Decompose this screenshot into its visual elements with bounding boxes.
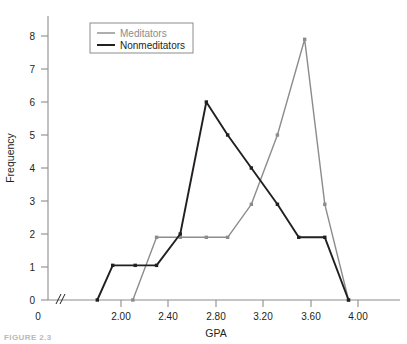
- data-point: [276, 203, 279, 206]
- figure-caption: FIGURE 2.3: [4, 333, 52, 342]
- x-axis-ticks: [121, 300, 358, 307]
- data-point: [250, 166, 253, 169]
- data-point: [226, 236, 229, 239]
- data-point: [179, 232, 182, 235]
- x-axis-title: GPA: [205, 327, 226, 339]
- legend-label-meditators: Meditators: [120, 28, 167, 39]
- data-point: [155, 264, 158, 267]
- chart-canvas: 0 1 2 3 4 5 6 7 8 0 2.00 2.40 2.80 3.20 …: [0, 0, 407, 344]
- y-axis-title: Frequency: [4, 132, 16, 182]
- y-axis-tick-labels: 0 1 2 3 4 5 6 7 8: [29, 31, 35, 306]
- data-point: [297, 236, 300, 239]
- x-tick-label-240: 2.40: [158, 311, 178, 322]
- x-axis-tick-labels: 0 2.00 2.40 2.80 3.20 3.60 4.00: [35, 311, 368, 322]
- data-point: [303, 38, 306, 41]
- y-tick-label-1: 1: [29, 262, 35, 273]
- data-point: [111, 264, 114, 267]
- data-point: [250, 203, 253, 206]
- x-tick-label-200: 2.00: [111, 311, 131, 322]
- data-point: [276, 133, 279, 136]
- series-nonmeditators: [96, 100, 351, 301]
- x-tick-label-320: 3.20: [253, 311, 273, 322]
- y-tick-label-2: 2: [29, 229, 35, 240]
- x-tick-label-0: 0: [35, 311, 41, 322]
- data-series-layer: [96, 38, 351, 302]
- y-tick-label-8: 8: [29, 31, 35, 42]
- chart-legend: Meditators Nonmeditators: [90, 23, 193, 53]
- data-point: [134, 264, 137, 267]
- y-tick-label-7: 7: [29, 64, 35, 75]
- data-point: [131, 298, 134, 301]
- y-tick-label-4: 4: [29, 163, 35, 174]
- series-line-meditators: [133, 39, 349, 300]
- x-tick-label-360: 3.60: [301, 311, 321, 322]
- data-point: [323, 203, 326, 206]
- y-tick-label-3: 3: [29, 196, 35, 207]
- x-tick-label-400: 4.00: [348, 311, 368, 322]
- y-tick-label-5: 5: [29, 130, 35, 141]
- data-point: [205, 236, 208, 239]
- data-point: [323, 236, 326, 239]
- y-tick-label-0: 0: [29, 295, 35, 306]
- data-point: [226, 133, 229, 136]
- axes-group: [48, 16, 400, 300]
- figure-container: 0 1 2 3 4 5 6 7 8 0 2.00 2.40 2.80 3.20 …: [0, 0, 407, 344]
- y-axis-ticks: [41, 36, 48, 300]
- series-meditators: [131, 38, 350, 302]
- y-tick-label-6: 6: [29, 97, 35, 108]
- data-point: [96, 298, 99, 301]
- data-point: [347, 298, 350, 301]
- legend-label-nonmeditators: Nonmeditators: [120, 40, 185, 51]
- x-tick-label-280: 2.80: [206, 311, 226, 322]
- x-axis-break-icon: [56, 294, 65, 304]
- series-line-nonmeditators: [97, 102, 348, 300]
- data-point: [155, 236, 158, 239]
- data-point: [205, 100, 208, 103]
